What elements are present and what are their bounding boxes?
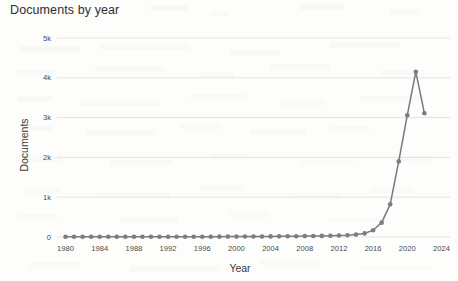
data-point — [217, 234, 222, 239]
y-tick-label: 1k — [43, 193, 51, 202]
data-point — [311, 234, 316, 239]
y-tick-label: 5k — [43, 34, 51, 43]
data-point — [302, 234, 307, 239]
data-point — [123, 235, 128, 240]
data-point — [243, 234, 248, 239]
y-tick-label: 4k — [43, 73, 51, 82]
data-point — [328, 233, 333, 238]
x-tick-label: 1988 — [125, 244, 142, 253]
chart-screenshot: Documents by year 01k2k3k4k5k 1980198419… — [0, 0, 458, 281]
y-tick-label: 2k — [43, 153, 51, 162]
data-point — [149, 234, 154, 239]
data-point — [422, 111, 427, 116]
data-point — [345, 233, 350, 238]
data-point — [260, 234, 265, 239]
data-point — [157, 234, 162, 239]
data-point — [388, 202, 393, 207]
x-tick-label: 1980 — [57, 244, 74, 253]
data-point — [320, 234, 325, 239]
y-tick-label: 0 — [47, 233, 51, 242]
x-tick-label: 2016 — [365, 244, 382, 253]
x-tick-label: 1996 — [194, 244, 211, 253]
data-point — [371, 228, 376, 233]
data-point — [405, 113, 410, 118]
data-point — [140, 235, 145, 240]
data-point — [414, 70, 419, 75]
data-point — [362, 231, 367, 236]
x-tick-label: 2004 — [262, 244, 279, 253]
data-point — [285, 234, 290, 239]
data-point — [89, 235, 94, 240]
data-point — [191, 234, 196, 239]
data-point — [234, 234, 239, 239]
data-point — [226, 234, 231, 239]
data-point — [251, 234, 256, 239]
x-tick-label: 2020 — [399, 244, 416, 253]
data-point — [200, 234, 205, 239]
x-tick-label: 2012 — [330, 244, 347, 253]
x-axis-title: Year — [229, 262, 251, 274]
data-point — [337, 233, 342, 238]
x-tick-label: 1992 — [160, 244, 177, 253]
x-tick-labels: 1980198419881992199620002004200820122016… — [57, 244, 450, 253]
data-point — [115, 235, 120, 240]
data-point — [97, 235, 102, 240]
y-tick-labels: 01k2k3k4k5k — [43, 34, 51, 242]
y-axis-title: Documents — [18, 118, 30, 171]
x-tick-label: 2008 — [296, 244, 313, 253]
data-point — [63, 235, 68, 240]
data-point — [72, 235, 77, 240]
data-point — [106, 235, 111, 240]
x-tick-label: 2000 — [228, 244, 245, 253]
data-point — [208, 234, 213, 239]
series-line — [66, 72, 425, 237]
line-chart-plot: 01k2k3k4k5k 1980198419881992199620002004… — [0, 0, 458, 281]
x-tick-label: 1984 — [91, 244, 108, 253]
data-point — [354, 232, 359, 237]
y-tick-label: 3k — [43, 113, 51, 122]
x-tick-label: 2024 — [433, 244, 450, 253]
data-point — [277, 234, 282, 239]
data-point — [166, 234, 171, 239]
series-markers — [63, 70, 426, 240]
gridlines — [57, 38, 450, 237]
data-point — [80, 235, 85, 240]
data-point — [132, 235, 137, 240]
data-point — [174, 234, 179, 239]
data-point — [379, 220, 384, 225]
data-point — [396, 159, 401, 164]
data-point — [294, 234, 299, 239]
data-point — [183, 234, 188, 239]
data-point — [268, 234, 273, 239]
